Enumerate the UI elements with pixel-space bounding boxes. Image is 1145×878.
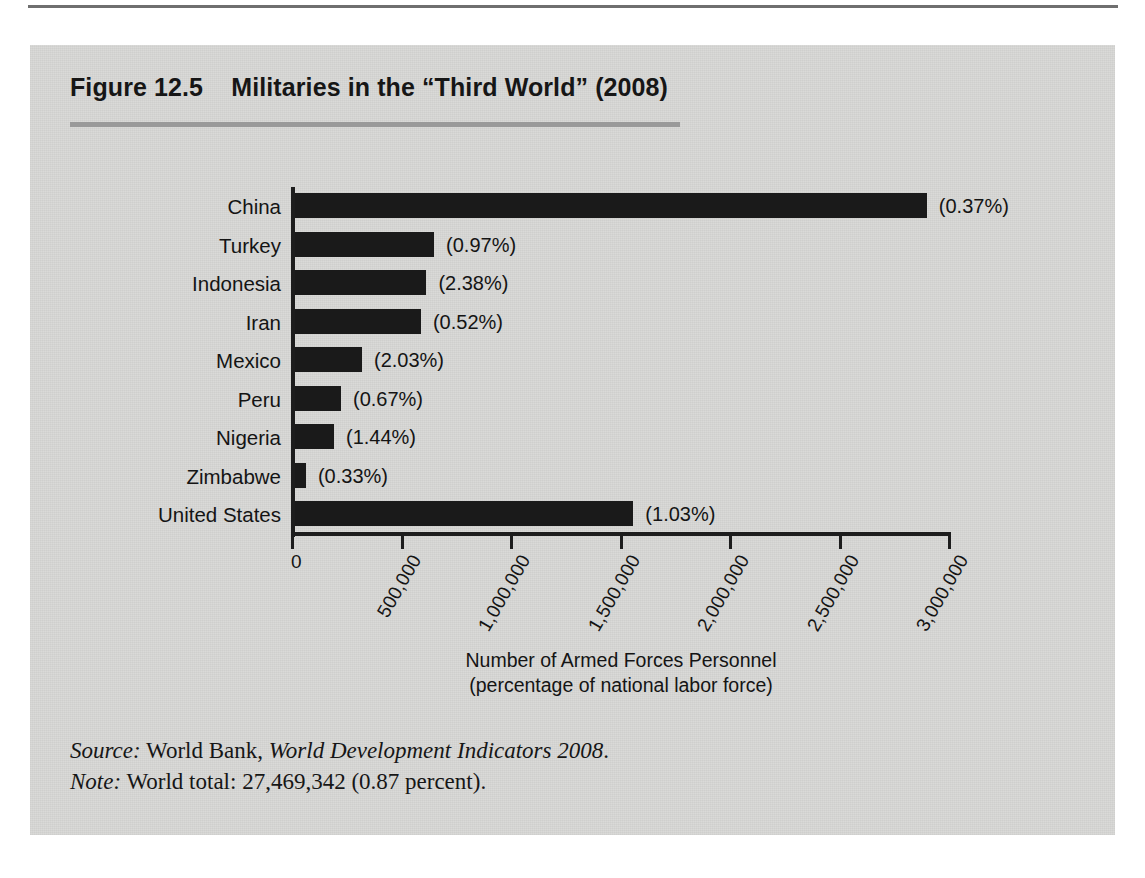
source-title-italic: World Development Indicators 2008 xyxy=(269,738,604,763)
source-text: World Bank, xyxy=(146,738,269,763)
x-tick-label: 2,000,000 xyxy=(693,551,754,635)
bar-value-label: (0.37%) xyxy=(939,195,1009,218)
bar-row: Turkey(0.97%) xyxy=(30,229,1115,268)
x-tick xyxy=(948,536,951,549)
page-top-rule xyxy=(28,5,1118,8)
bar-value-label: (2.03%) xyxy=(374,349,444,372)
source-period: . xyxy=(603,738,609,763)
bar-category-label: Nigeria xyxy=(216,426,281,450)
bar-row: Indonesia(2.38%) xyxy=(30,267,1115,306)
bar xyxy=(295,270,426,295)
bar-value-label: (0.52%) xyxy=(433,311,503,334)
x-tick-label: 3,000,000 xyxy=(912,551,973,635)
bar-rows: China(0.37%)Turkey(0.97%)Indonesia(2.38%… xyxy=(30,190,1115,537)
bar-value-label: (0.97%) xyxy=(446,234,516,257)
bar-category-label: United States xyxy=(158,503,281,527)
bar xyxy=(295,463,306,488)
bar-category-label: China xyxy=(227,195,281,219)
bar xyxy=(295,347,362,372)
bar-category-label: Indonesia xyxy=(192,272,281,296)
bar-chart-plot-area: China(0.37%)Turkey(0.97%)Indonesia(2.38%… xyxy=(30,45,1115,745)
x-axis-title: Number of Armed Forces Personnel (percen… xyxy=(291,648,951,698)
bar-value-label: (0.33%) xyxy=(318,465,388,488)
x-tick xyxy=(620,536,623,549)
bar-row: Peru(0.67%) xyxy=(30,383,1115,422)
note-line: Note: World total: 27,469,342 (0.87 perc… xyxy=(70,766,609,797)
bar-row: United States(1.03%) xyxy=(30,498,1115,537)
bar-category-label: Mexico xyxy=(216,349,281,373)
bar-row: China(0.37%) xyxy=(30,190,1115,229)
x-axis-ticks xyxy=(30,536,1115,550)
x-tick-label: 0 xyxy=(291,551,302,573)
bar xyxy=(295,232,434,257)
x-tick xyxy=(401,536,404,549)
bar-row: Nigeria(1.44%) xyxy=(30,421,1115,460)
bar xyxy=(295,309,421,334)
source-line: Source: World Bank, World Development In… xyxy=(70,735,609,766)
x-tick-label: 500,000 xyxy=(372,551,425,621)
bar xyxy=(295,386,341,411)
x-tick xyxy=(291,536,294,549)
bar-category-label: Peru xyxy=(238,388,281,412)
source-label: Source: xyxy=(70,738,141,763)
bar-row: Mexico(2.03%) xyxy=(30,344,1115,383)
note-label: Note: xyxy=(70,769,121,794)
bar-category-label: Zimbabwe xyxy=(186,465,281,489)
x-axis-title-line2: (percentage of national labor force) xyxy=(291,673,951,698)
x-tick-label: 2,500,000 xyxy=(802,551,863,635)
figure-card: Figure 12.5 Militaries in the “Third Wor… xyxy=(30,45,1115,835)
x-tick-label: 1,500,000 xyxy=(583,551,644,635)
x-tick xyxy=(729,536,732,549)
bar-value-label: (2.38%) xyxy=(438,272,508,295)
x-tick-label: 1,000,000 xyxy=(474,551,535,635)
x-tick xyxy=(839,536,842,549)
bar-row: Iran(0.52%) xyxy=(30,306,1115,345)
bar-category-label: Turkey xyxy=(219,234,281,258)
x-tick xyxy=(510,536,513,549)
bar-value-label: (0.67%) xyxy=(353,388,423,411)
bar-value-label: (1.03%) xyxy=(645,503,715,526)
bar xyxy=(295,424,334,449)
bar xyxy=(295,501,633,526)
bar-value-label: (1.44%) xyxy=(346,426,416,449)
note-text: World total: 27,469,342 (0.87 percent). xyxy=(126,769,486,794)
bar-row: Zimbabwe(0.33%) xyxy=(30,460,1115,499)
source-note-block: Source: World Bank, World Development In… xyxy=(70,735,609,797)
x-axis-title-line1: Number of Armed Forces Personnel xyxy=(291,648,951,673)
bar-category-label: Iran xyxy=(246,311,281,335)
bar xyxy=(295,193,927,218)
